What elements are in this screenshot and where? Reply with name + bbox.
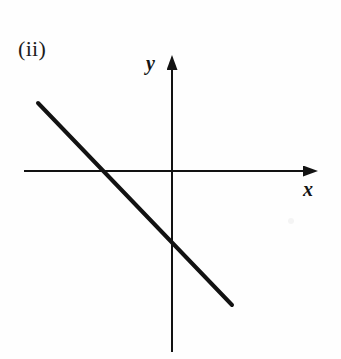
scan-speck-artifact <box>288 218 294 224</box>
part-label: (ii) <box>18 36 46 62</box>
x-axis-label: x <box>303 178 313 201</box>
graph-canvas <box>0 0 341 359</box>
plotted-line <box>38 103 232 305</box>
graph-figure: (ii) y x <box>0 0 341 359</box>
y-axis-label: y <box>146 52 155 75</box>
